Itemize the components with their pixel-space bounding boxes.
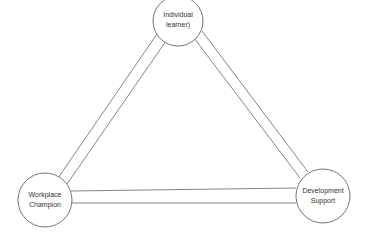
connector-learner-champion <box>67 41 166 184</box>
connector-learner-support <box>194 38 300 178</box>
node-champion-line2: Champion <box>15 200 75 210</box>
connector-learner-champion <box>58 34 157 178</box>
connector-learner-support <box>202 31 308 172</box>
node-learner-label: Individual learner) <box>148 10 208 30</box>
node-champion-line1: Workplace <box>15 190 75 200</box>
node-learner-line1: Individual <box>148 10 208 20</box>
node-support-line1: Development <box>293 186 353 196</box>
node-support-label: Development Support <box>293 186 353 206</box>
node-learner-line2: learner) <box>148 20 208 30</box>
connector-champion-support <box>71 188 296 191</box>
node-champion-label: Workplace Champion <box>15 190 75 210</box>
node-support-line2: Support <box>293 196 353 206</box>
